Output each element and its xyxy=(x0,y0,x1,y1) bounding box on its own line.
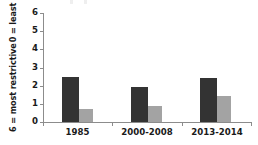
y-axis-caption-line-2: 0 = least restrictive xyxy=(8,0,18,42)
y-tick-label: 1 xyxy=(24,99,38,108)
bar-light xyxy=(217,96,231,122)
bar-dark xyxy=(200,78,217,123)
bar-group xyxy=(200,13,231,122)
x-axis-label-2000-2008: 2000-2008 xyxy=(112,127,182,137)
x-tick-mark xyxy=(182,122,183,126)
bar-dark xyxy=(62,77,79,122)
y-tick-label: 2 xyxy=(24,81,38,90)
bar-group xyxy=(131,13,162,122)
bar-group xyxy=(62,13,93,122)
y-tick-label: 4 xyxy=(24,44,38,53)
y-axis-caption-line-1: 6 = most restrictive xyxy=(8,43,18,132)
y-tick-label: 6 xyxy=(24,8,38,17)
x-axis-label-2013-2014: 2013-2014 xyxy=(182,127,252,137)
x-axis-label-1985: 1985 xyxy=(43,127,112,137)
x-axis-line xyxy=(43,122,252,123)
y-tick-label: 5 xyxy=(24,26,38,35)
bar-light xyxy=(79,109,93,122)
x-tick-mark xyxy=(251,122,252,126)
bar-light xyxy=(148,106,162,122)
cropped-artifact xyxy=(70,0,96,4)
x-tick-mark xyxy=(112,122,113,126)
y-tick-label: 0 xyxy=(24,117,38,126)
y-tick-label: 3 xyxy=(24,63,38,72)
bar-dark xyxy=(131,87,148,122)
x-tick-mark xyxy=(43,122,44,126)
plot-area xyxy=(43,13,252,122)
bar-chart: 6 = most restrictive 0 = least restricti… xyxy=(0,0,258,145)
y-axis-caption: 6 = most restrictive 0 = least restricti… xyxy=(0,0,26,98)
